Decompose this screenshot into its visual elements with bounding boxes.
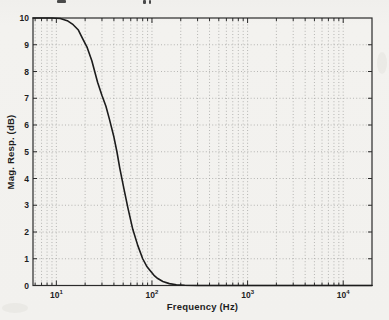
x-tick-label: 102: [146, 289, 159, 300]
y-tick-label: 7: [24, 93, 29, 103]
x-axis-label: Frequency (Hz): [33, 301, 372, 312]
scan-smudge: [2, 303, 28, 313]
magnitude-response-chart: 012345678910101102103104: [0, 0, 389, 320]
y-tick-label: 0: [24, 281, 29, 291]
y-tick-label: 4: [24, 174, 29, 184]
y-tick-label: 3: [24, 200, 29, 210]
scanned-figure-page: 012345678910101102103104 Frequency (Hz) …: [0, 0, 389, 320]
y-tick-label: 2: [24, 227, 29, 237]
y-tick-label: 9: [24, 40, 29, 50]
y-axis-label: Mag. Resp. (dB): [5, 115, 16, 190]
y-tick-label: 8: [24, 67, 29, 77]
x-tick-label: 104: [337, 289, 350, 300]
y-tick-label: 1: [24, 254, 29, 264]
y-tick-label: 10: [20, 13, 30, 23]
scan-smudge: [377, 52, 387, 74]
x-tick-label: 103: [241, 289, 254, 300]
y-tick-label: 5: [24, 147, 29, 157]
x-tick-label: 101: [50, 289, 63, 300]
y-tick-label: 6: [24, 120, 29, 130]
